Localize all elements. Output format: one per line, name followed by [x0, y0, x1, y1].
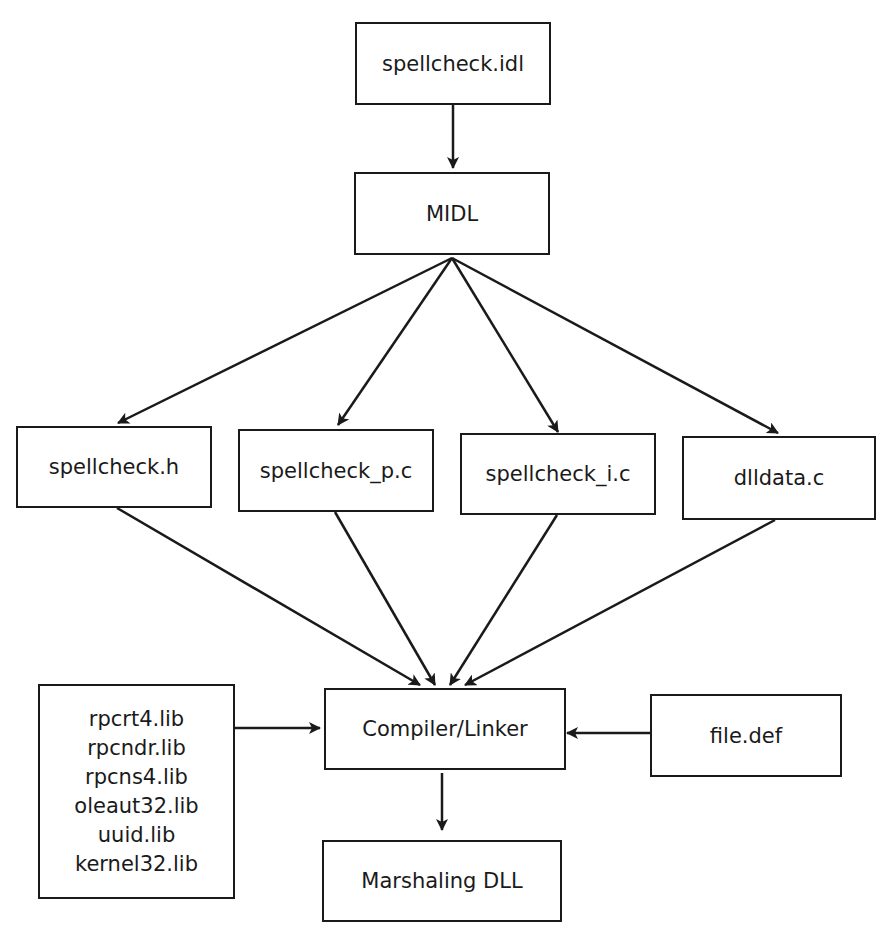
- node-spellcheck-i-c: spellcheck_i.c: [460, 433, 656, 515]
- node-spellcheck-p-c: spellcheck_p.c: [238, 429, 434, 512]
- node-libraries: rpcrt4.lib rpcndr.lib rpcns4.lib oleaut3…: [38, 684, 235, 899]
- node-label: spellcheck_i.c: [486, 462, 631, 486]
- node-label: file.def: [710, 724, 782, 748]
- node-spellcheck-idl: spellcheck.idl: [355, 22, 551, 105]
- node-label: Marshaling DLL: [361, 869, 522, 893]
- lib-item: uuid.lib: [98, 821, 175, 850]
- node-spellcheck-h: spellcheck.h: [16, 426, 212, 508]
- arrow-midl-to-dlldata: [452, 258, 778, 433]
- lib-item: oleaut32.lib: [74, 792, 198, 821]
- arrow-header-to-compiler: [117, 508, 420, 685]
- node-dlldata-c: dlldata.c: [682, 436, 876, 520]
- node-compiler-linker: Compiler/Linker: [324, 688, 566, 770]
- lib-item: rpcrt4.lib: [89, 705, 184, 734]
- arrow-midl-to-iid: [452, 258, 558, 432]
- node-file-def: file.def: [650, 694, 842, 777]
- node-label: spellcheck.idl: [382, 52, 524, 76]
- lib-item: kernel32.lib: [75, 850, 198, 879]
- node-label: MIDL: [426, 202, 478, 226]
- node-label: spellcheck_p.c: [260, 459, 412, 483]
- lib-item: rpcndr.lib: [87, 734, 186, 763]
- node-midl: MIDL: [354, 172, 550, 255]
- node-marshaling-dll: Marshaling DLL: [322, 840, 562, 922]
- node-label: Compiler/Linker: [362, 717, 527, 741]
- arrow-proxy-to-compiler: [335, 512, 435, 685]
- arrow-midl-to-proxy: [338, 258, 452, 425]
- lib-item: rpcns4.lib: [85, 763, 188, 792]
- arrow-iid-to-compiler: [450, 515, 557, 685]
- node-label: spellcheck.h: [49, 455, 179, 479]
- node-label: dlldata.c: [734, 466, 825, 490]
- arrow-midl-to-header: [118, 258, 452, 423]
- arrow-dlldata-to-compiler: [465, 520, 775, 685]
